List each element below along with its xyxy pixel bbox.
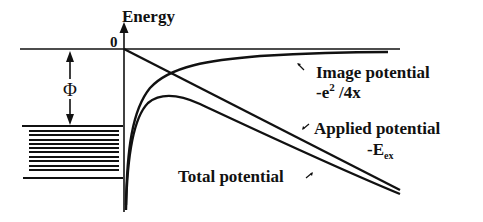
- work-function-arrow-down-icon: [66, 114, 74, 125]
- energy-axis-label: Energy: [122, 7, 175, 26]
- work-function-symbol: Φ: [63, 79, 77, 100]
- metal-energy-bands: [22, 126, 123, 178]
- image-potential-label: Image potential: [316, 63, 430, 82]
- applied-potential-label: Applied potential: [314, 119, 440, 138]
- origin-label: 0: [110, 34, 118, 50]
- energy-diagram: Φ Energy 0 Image potential -e2 /4x Appli…: [0, 0, 483, 222]
- total-potential-label: Total potential: [178, 167, 284, 186]
- total-potential-curve: [126, 96, 400, 210]
- image-potential-formula: -e2 /4x: [316, 81, 361, 102]
- applied-potential-formula: -Eex: [367, 140, 393, 161]
- work-function-arrow-up-icon: [66, 51, 74, 62]
